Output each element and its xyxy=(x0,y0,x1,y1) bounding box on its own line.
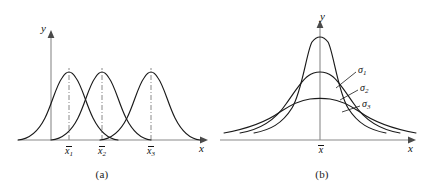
sigma-sub-2: 2 xyxy=(365,87,369,95)
overbar-1 xyxy=(66,146,72,147)
panel-a-plot xyxy=(0,0,212,193)
sigma-label-2: σ2 xyxy=(360,82,368,93)
tick-sub-1: 1 xyxy=(69,150,73,158)
y-axis-label-b: y xyxy=(320,10,325,22)
x-axis-label-b: x xyxy=(408,142,413,154)
distribution-curve-1 xyxy=(18,72,118,140)
tick-sub-2: 2 xyxy=(102,150,106,158)
caption-panel-b: (b) xyxy=(216,168,424,180)
tick-sub-3: 3 xyxy=(151,150,155,158)
overbar-center xyxy=(318,145,324,146)
panel-b: y x x σ1 σ2 σ3 (b) xyxy=(212,0,424,193)
y-axis-arrow-a xyxy=(48,30,55,38)
x-axis-label-a: x xyxy=(199,142,204,154)
tick-label-xbar-2: x2 xyxy=(94,145,110,156)
sigma-sub-1: 1 xyxy=(363,69,367,77)
tick-label-xbar-3: x3 xyxy=(143,145,159,156)
tick-label-xbar-center: x xyxy=(314,144,328,155)
distribution-curve-3 xyxy=(100,72,200,140)
sigma-label-1: σ1 xyxy=(358,64,366,75)
panel-a: y x x1 x2 x3 (a) xyxy=(0,0,212,193)
panel-b-plot xyxy=(212,0,424,193)
figure-container: y x x1 x2 x3 (a) xyxy=(0,0,424,193)
leader-line-sigma-1 xyxy=(336,72,356,88)
overbar-3 xyxy=(148,146,154,147)
tick-label-xbar-1: x1 xyxy=(61,145,77,156)
caption-panel-a: (a) xyxy=(0,168,208,180)
sigma-label-3: σ3 xyxy=(362,98,370,109)
overbar-2 xyxy=(99,146,105,147)
y-axis-label-a: y xyxy=(41,22,46,34)
sigma-sub-3: 3 xyxy=(367,103,371,111)
